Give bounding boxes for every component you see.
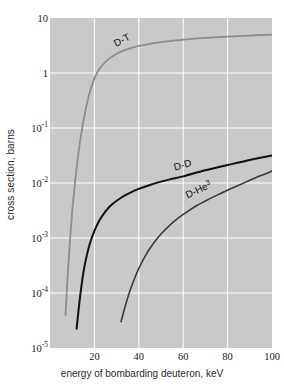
figure-container: cross section, barns 10110-110-210-310-4… [0, 0, 284, 388]
plot-area: D-TD-DD-He3 [0, 0, 284, 388]
